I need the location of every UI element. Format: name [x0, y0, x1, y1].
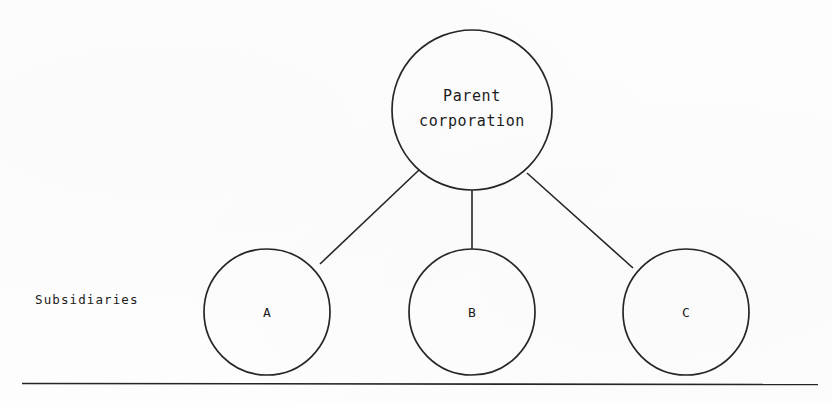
subsidiary-b-label: B: [468, 305, 476, 320]
subsidiaries-row-label: Subsidiaries: [35, 292, 139, 307]
diagram-page: Parent corporation A B C Subsidiaries: [0, 0, 832, 401]
edge-parent-to-c: [527, 173, 633, 268]
org-chart-svg: Parent corporation A B C: [0, 0, 832, 401]
parent-corporation-label-line2: corporation: [419, 112, 525, 130]
subsidiary-a-label: A: [263, 305, 271, 320]
parent-corporation-label-line1: Parent: [443, 87, 501, 105]
subsidiary-c-label: C: [682, 305, 690, 320]
parent-corporation-circle[interactable]: [392, 30, 552, 190]
footer-rule: [22, 384, 818, 385]
edge-parent-to-a: [320, 170, 419, 264]
